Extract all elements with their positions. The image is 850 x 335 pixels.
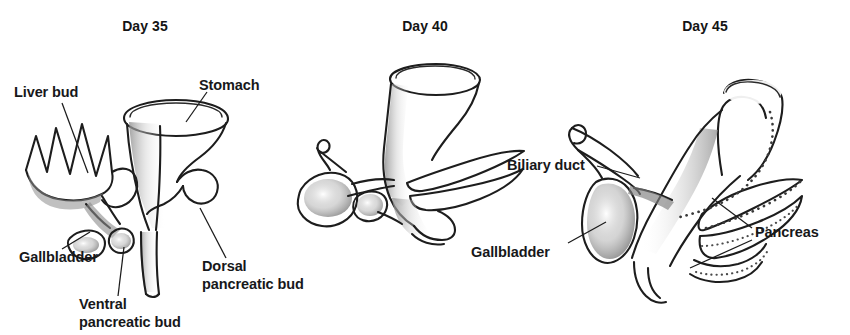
- panel-title-day45: Day 45: [560, 18, 850, 34]
- label-dorsal-line1: Dorsal: [202, 258, 247, 274]
- label-liver-bud: Liver bud: [14, 84, 78, 101]
- panel-title-day40: Day 40: [280, 18, 570, 34]
- label-gallbladder-day35: Gallbladder: [19, 249, 98, 266]
- label-biliary-duct: Biliary duct: [507, 157, 585, 174]
- label-ventral-pancreatic-bud: Ventral pancreatic bud: [79, 296, 229, 331]
- label-gallbladder-day45: Gallbladder: [471, 244, 550, 261]
- panel-day45: Day 45: [560, 0, 850, 335]
- label-pancreas: Pancreas: [755, 224, 819, 241]
- label-ventral-line2: pancreatic bud: [79, 314, 181, 330]
- panel-title-day35: Day 35: [0, 18, 290, 34]
- label-ventral-line1: Ventral: [79, 296, 127, 312]
- development-figure: Day 35 Liver bud Stomach Gallbladder Ven…: [0, 0, 850, 335]
- label-stomach: Stomach: [199, 77, 260, 94]
